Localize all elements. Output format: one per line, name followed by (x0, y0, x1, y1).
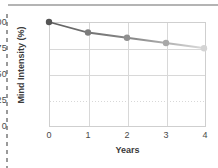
x-tick-label-2: 2 (115, 130, 139, 140)
y-tick-label-100: 100 (0, 17, 7, 27)
y-tick-label-50: 50 (0, 69, 7, 79)
data-point-year-3 (163, 40, 169, 46)
x-tick-label-0: 0 (37, 130, 61, 140)
y-axis-title: Mind Intensity (%) (16, 5, 26, 125)
data-point-year-0 (46, 19, 52, 25)
y-tick-label-25: 25 (0, 95, 7, 105)
data-series-line (49, 22, 206, 127)
data-point-year-4 (201, 45, 207, 51)
x-axis-title: Years (49, 145, 206, 155)
x-tick-label-1: 1 (76, 130, 100, 140)
data-point-year-1 (85, 29, 91, 35)
chart-figure: 100 75 50 25 0 0 1 2 3 4 Years (0, 0, 218, 168)
y-tick-label-0: 0 (0, 121, 7, 131)
y-tick-label-75: 75 (0, 43, 7, 53)
x-tick-label-3: 3 (154, 130, 178, 140)
x-tick-label-4: 4 (193, 130, 217, 140)
data-point-year-2 (124, 35, 130, 41)
page-top-rule (8, 4, 218, 6)
page-left-dashed-line (6, 14, 8, 168)
